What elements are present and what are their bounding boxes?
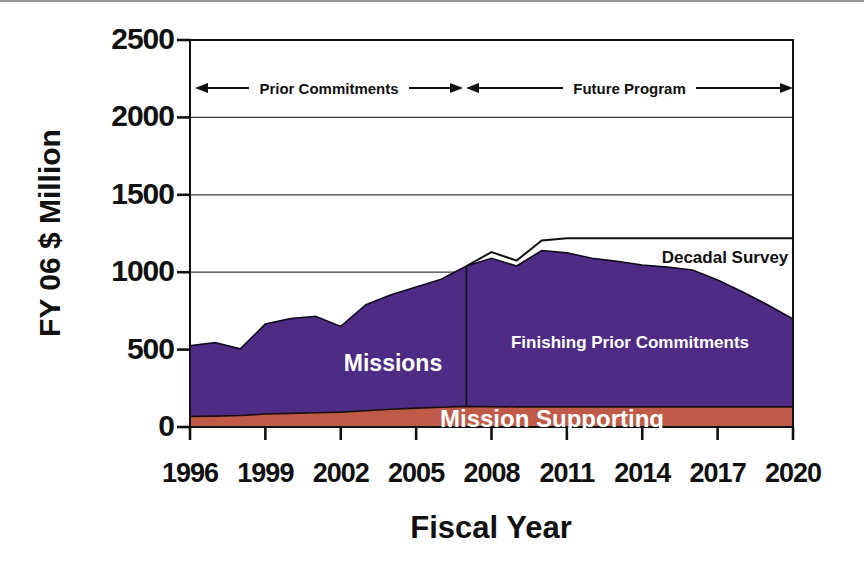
prior-commitments-range-annotation: Prior Commitments bbox=[195, 80, 463, 96]
x-axis-title: Fiscal Year bbox=[410, 512, 571, 543]
x-tick-label: 2005 bbox=[388, 458, 444, 489]
arrow-left-icon bbox=[195, 83, 208, 93]
y-tick-label: 1500 bbox=[111, 177, 174, 211]
finishing-prior-commitments-area-label: Finishing Prior Commitments bbox=[511, 334, 749, 351]
arrow-left-icon bbox=[466, 83, 479, 93]
x-tick-label: 2020 bbox=[765, 458, 821, 489]
y-axis-title: FY 06 $ Million bbox=[35, 129, 65, 337]
budget-area-chart-figure: FY 06 $ Million Fiscal Year 050010001500… bbox=[0, 0, 864, 578]
x-tick-label: 2017 bbox=[690, 458, 746, 489]
x-tick-label: 2002 bbox=[313, 458, 369, 489]
y-tick-label: 2000 bbox=[111, 100, 174, 134]
future-program-label: Future Program bbox=[563, 80, 696, 97]
arrow-right-icon bbox=[450, 83, 463, 93]
arrow-line bbox=[208, 87, 249, 89]
arrow-line bbox=[409, 87, 450, 89]
y-tick-label: 1000 bbox=[111, 255, 174, 289]
x-tick-label: 2008 bbox=[463, 458, 519, 489]
x-tick-label: 2014 bbox=[614, 458, 670, 489]
x-tick-label: 2011 bbox=[540, 458, 595, 489]
arrow-right-icon bbox=[780, 83, 793, 93]
arrow-line bbox=[696, 87, 780, 89]
y-tick-label: 500 bbox=[127, 332, 174, 366]
prior-commitments-label: Prior Commitments bbox=[249, 80, 408, 97]
decadal-survey-area-label: Decadal Survey bbox=[662, 249, 789, 266]
future-program-range-annotation: Future Program bbox=[466, 80, 793, 96]
mission-supporting-area-label: Mission Supporting bbox=[440, 407, 664, 431]
y-tick-label: 2500 bbox=[111, 22, 174, 56]
x-tick-label: 1996 bbox=[162, 458, 218, 489]
arrow-line bbox=[479, 87, 563, 89]
y-tick-label: 0 bbox=[158, 409, 174, 443]
missions-area-label: Missions bbox=[344, 352, 442, 375]
x-tick-label: 1999 bbox=[237, 458, 293, 489]
